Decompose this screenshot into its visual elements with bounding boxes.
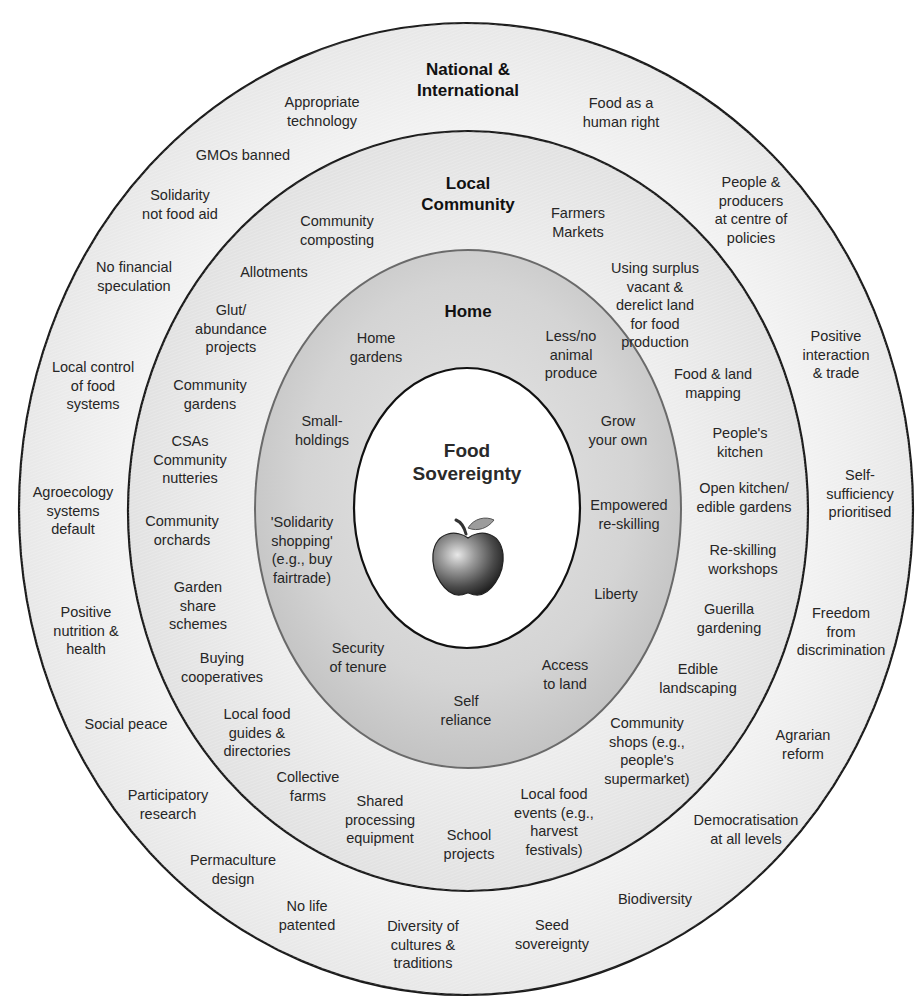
- ring-title-home: Home: [444, 301, 491, 322]
- community-item: Guerilla gardening: [697, 600, 762, 637]
- community-item: Local food events (e.g., harvest festiva…: [514, 785, 594, 859]
- home-item: Security of tenure: [329, 639, 386, 676]
- national-item: Appropriate technology: [285, 93, 360, 130]
- community-item: Using surplus vacant & derelict land for…: [611, 259, 699, 352]
- national-item: Agrarian reform: [776, 726, 831, 763]
- apple-icon: [428, 512, 508, 598]
- national-item: Food as a human right: [583, 94, 660, 131]
- national-item: Permaculture design: [190, 851, 276, 888]
- national-item: Positive interaction & trade: [803, 327, 870, 383]
- national-item: Participatory research: [128, 786, 209, 823]
- home-item: Small- holdings: [295, 412, 349, 449]
- community-item: CSAs Community nutteries: [153, 432, 226, 488]
- national-item: Seed sovereignty: [515, 916, 589, 953]
- home-item: Grow your own: [589, 412, 648, 449]
- national-item: Social peace: [84, 715, 167, 734]
- community-item: Garden share schemes: [169, 578, 227, 634]
- home-item: Home gardens: [350, 329, 402, 366]
- national-item: Local control of food systems: [52, 358, 134, 414]
- national-item: Solidarity not food aid: [142, 186, 218, 223]
- national-item: Agroecology systems default: [33, 483, 114, 539]
- home-item: Self reliance: [441, 692, 492, 729]
- community-item: Glut/ abundance projects: [195, 301, 267, 357]
- national-item: No financial speculation: [96, 258, 172, 295]
- community-item: Local food guides & directories: [224, 705, 291, 761]
- community-item: School projects: [444, 826, 495, 863]
- home-item: Empowered re-skilling: [590, 496, 667, 533]
- community-item: Re-skilling workshops: [708, 541, 777, 578]
- national-item: No life patented: [279, 897, 335, 934]
- home-item: Liberty: [594, 585, 638, 604]
- ring-title-local-community: Local Community: [421, 173, 515, 215]
- community-item: Open kitchen/ edible gardens: [696, 479, 791, 516]
- home-item: Less/no animal produce: [545, 327, 597, 383]
- national-item: Freedom from discrimination: [797, 604, 886, 660]
- ring-title-national-international: National & International: [417, 59, 519, 101]
- community-item: Community gardens: [173, 376, 246, 413]
- home-item: 'Solidarity shopping' (e.g., buy fairtra…: [271, 513, 333, 587]
- community-item: Community composting: [300, 212, 374, 249]
- national-item: Biodiversity: [618, 890, 692, 909]
- community-item: Farmers Markets: [551, 204, 605, 241]
- community-item: Edible landscaping: [659, 660, 736, 697]
- community-item: Buying cooperatives: [181, 649, 263, 686]
- home-item: Access to land: [542, 656, 589, 693]
- community-item: Allotments: [240, 263, 308, 282]
- national-item: People & producers at centre of policies: [715, 173, 788, 247]
- community-item: Community shops (e.g., people's supermar…: [604, 714, 689, 788]
- center-title: Food Sovereignty: [413, 439, 522, 485]
- national-item: Diversity of cultures & traditions: [387, 917, 459, 973]
- community-item: Community orchards: [145, 512, 218, 549]
- national-item: Positive nutrition & health: [53, 603, 118, 659]
- national-item: Democratisation at all levels: [694, 811, 799, 848]
- center-food-sovereignty: [354, 368, 580, 648]
- community-item: Collective farms: [277, 768, 340, 805]
- community-item: Food & land mapping: [674, 365, 752, 402]
- community-item: Shared processing equipment: [345, 792, 415, 848]
- national-item: Self- sufficiency prioritised: [826, 466, 893, 522]
- community-item: People's kitchen: [712, 424, 767, 461]
- national-item: GMOs banned: [196, 146, 290, 165]
